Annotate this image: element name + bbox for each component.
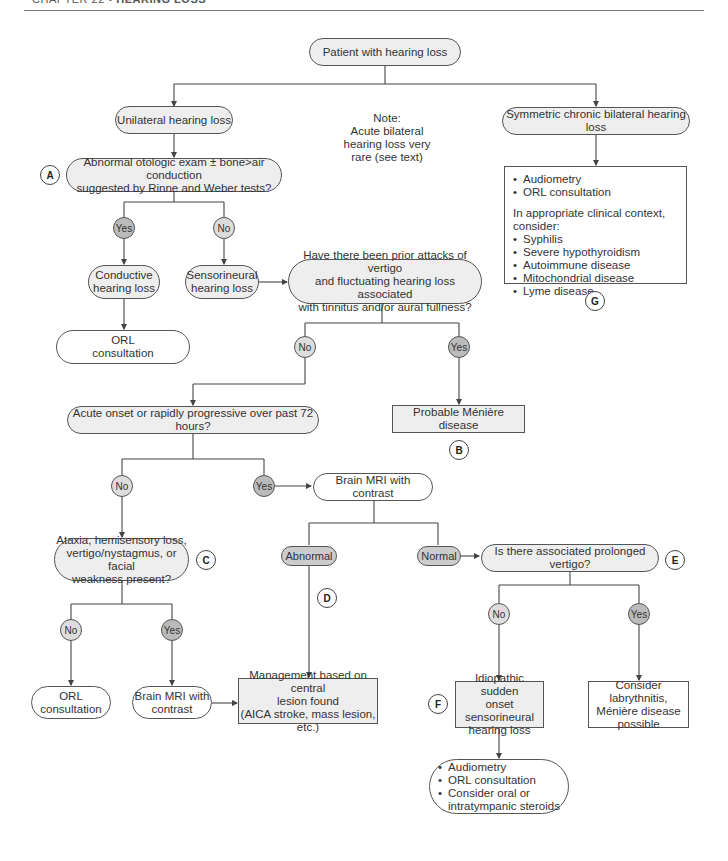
label-e: E: [665, 550, 685, 570]
list-item: Audiometry: [438, 761, 560, 774]
tag-text: Abnormal: [285, 550, 332, 562]
note-acute-bilateral: Note: Acute bilateral hearing loss very …: [322, 112, 452, 164]
no-circle: No: [213, 217, 235, 239]
node-sshl-workup: Audiometry ORL consultation Consider ora…: [429, 759, 569, 814]
node-text: ORL: [59, 690, 83, 703]
node-text: Probable Ménière disease: [393, 406, 524, 432]
node-text: Conductive: [95, 269, 153, 282]
label-d: D: [317, 588, 337, 608]
node-prior-vertigo-attacks: Have there been prior attacks of vertigo…: [288, 259, 482, 304]
node-text: hearing loss: [191, 282, 253, 295]
yn-text: Yes: [116, 223, 132, 234]
node-text: Management based on central: [239, 669, 377, 695]
node-text: weakness present?: [72, 573, 171, 586]
yn-text: No: [116, 481, 129, 492]
list-item: Severe hypothyroidism: [513, 246, 640, 259]
node-text: onset sensorineural: [456, 698, 543, 724]
node-text: Ataxia, hemisensory loss,: [56, 534, 186, 547]
list-item: ORL consultation: [513, 186, 611, 199]
node-text: consultation: [40, 703, 101, 716]
node-text: ORL: [111, 334, 135, 347]
note-line: Acute bilateral: [322, 125, 452, 138]
yes-circle: Yes: [253, 475, 275, 497]
node-conductive-hearing-loss: Conductive hearing loss: [88, 265, 160, 299]
sshl-workup-list: Audiometry ORL consultation Consider ora…: [438, 761, 560, 813]
node-text: Ménière disease: [596, 705, 680, 718]
node-acute-onset: Acute onset or rapidly progressive over …: [67, 406, 319, 434]
label-text: A: [46, 170, 53, 181]
yn-text: No: [218, 223, 231, 234]
node-text: suggested by Rinne and Weber tests?: [77, 182, 272, 195]
node-text: possible: [617, 718, 659, 731]
yes-circle: Yes: [628, 603, 650, 625]
node-sensorineural-hearing-loss: Sensorineural hearing loss: [185, 265, 259, 299]
node-text: (AICA stroke, mass lesion, etc.): [239, 708, 377, 734]
node-text: hearing loss: [93, 282, 155, 295]
node-symmetric-workup: Audiometry ORL consultation In appropria…: [504, 166, 687, 284]
node-orl-consultation: ORL consultation: [56, 330, 190, 364]
node-central-lesion-management: Management based on central lesion found…: [238, 678, 378, 724]
note-line: Note:: [322, 112, 452, 125]
label-text: F: [435, 699, 441, 710]
list-item: Lyme disease: [513, 285, 640, 298]
node-ataxia-hemisensory: Ataxia, hemisensory loss, vertigo/nystag…: [54, 538, 189, 581]
label-c: C: [196, 550, 216, 570]
node-text: lesion found: [277, 695, 339, 708]
yes-circle: Yes: [448, 336, 470, 358]
list-item: Autoimmune disease: [513, 259, 640, 272]
label-text: G: [591, 296, 599, 307]
yes-circle: Yes: [113, 217, 135, 239]
node-brain-mri-contrast-2: Brain MRI with contrast: [132, 686, 212, 719]
yn-text: No: [299, 342, 312, 353]
yn-text: No: [493, 609, 506, 620]
list-item-continuation: intratympanic steroids: [438, 800, 560, 813]
node-text: Brain MRI with contrast: [314, 474, 432, 500]
consider-list: Syphilis Severe hypothyroidism Autoimmun…: [513, 233, 640, 298]
label-f: F: [428, 694, 448, 714]
node-text: consultation: [92, 347, 153, 360]
node-text: and fluctuating hearing loss associated: [289, 275, 481, 301]
label-text: D: [323, 593, 330, 604]
list-item: Audiometry: [513, 173, 611, 186]
node-text: hearing loss: [468, 724, 530, 737]
label-text: E: [672, 555, 679, 566]
no-circle: No: [111, 475, 133, 497]
yn-text: Yes: [451, 342, 467, 353]
label-g: G: [585, 291, 605, 311]
node-text: Is there associated prolonged vertigo?: [482, 545, 658, 571]
yn-text: Yes: [164, 625, 180, 636]
tag-text: Normal: [421, 550, 456, 562]
node-brain-mri-contrast: Brain MRI with contrast: [313, 473, 433, 501]
list-item: ORL consultation: [438, 774, 560, 787]
node-consider-labyrinthitis: Consider labrythnitis, Ménière disease p…: [588, 681, 689, 728]
note-line: hearing loss very: [322, 138, 452, 151]
node-patient-hearing-loss: Patient with hearing loss: [309, 38, 461, 66]
node-text: Acute onset or rapidly progressive over …: [68, 407, 318, 433]
node-text: Abnormal otologic exam ± bone>air conduc…: [67, 156, 281, 182]
node-text: Consider labrythnitis,: [589, 679, 688, 705]
note-line: rare (see text): [322, 151, 452, 164]
node-text: with tinnitus and/or aural fullness?: [298, 301, 471, 314]
node-text: vertigo/nystagmus, or facial: [55, 547, 188, 573]
consider-label: In appropriate clinical context, conside…: [513, 207, 678, 233]
list-item: Consider oral or: [438, 787, 560, 800]
node-prolonged-vertigo: Is there associated prolonged vertigo?: [481, 544, 659, 572]
tag-abnormal: Abnormal: [281, 546, 337, 566]
label-text: C: [202, 555, 209, 566]
node-text: Have there been prior attacks of vertigo: [289, 249, 481, 275]
label-b: B: [449, 440, 469, 460]
node-orl-consultation-2: ORL consultation: [31, 686, 111, 719]
label-a: A: [40, 165, 60, 185]
node-text: Brain MRI with: [135, 690, 210, 703]
yn-text: Yes: [256, 481, 272, 492]
node-text: Patient with hearing loss: [323, 46, 448, 59]
node-symmetric-chronic-bilateral: Symmetric chronic bilateral hearing loss: [502, 107, 690, 135]
node-text: Unilateral hearing loss: [117, 114, 231, 127]
node-text: contrast: [152, 703, 193, 716]
node-idiopathic-sshl: Idiopathic sudden onset sensorineural he…: [455, 681, 544, 728]
node-abnormal-otologic-exam: Abnormal otologic exam ± bone>air conduc…: [66, 158, 282, 192]
tag-normal: Normal: [417, 546, 461, 566]
yn-text: Yes: [631, 609, 647, 620]
node-probable-meniere: Probable Ménière disease: [392, 405, 525, 433]
no-circle: No: [60, 619, 82, 641]
